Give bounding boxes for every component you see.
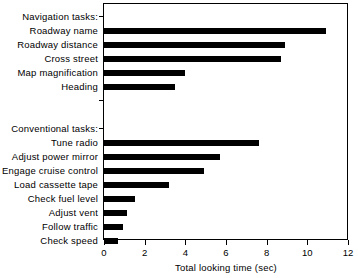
bar-row: Roadway distance xyxy=(0,38,358,52)
bar-row: Adjust power mirror xyxy=(0,150,358,164)
bar-row: Adjust vent xyxy=(0,206,358,220)
x-axis-tick-label: 10 xyxy=(302,246,313,259)
group-axis-tick xyxy=(99,128,104,129)
bar-row: Load cassette tape xyxy=(0,178,358,192)
bar-track xyxy=(104,84,175,90)
bar-track xyxy=(104,154,220,160)
x-axis-tick xyxy=(185,240,186,245)
bar xyxy=(104,70,185,76)
x-axis-tick xyxy=(307,240,308,245)
bar-row: Check fuel level xyxy=(0,192,358,206)
bar-category-label: Adjust vent xyxy=(0,206,98,220)
bar xyxy=(104,154,220,160)
x-axis-tick-label: 0 xyxy=(101,246,106,259)
bar-category-label: Load cassette tape xyxy=(0,178,98,192)
x-axis-tick xyxy=(348,240,349,245)
x-axis-tick xyxy=(226,240,227,245)
x-axis-tick-label: 2 xyxy=(142,246,147,259)
x-axis-ticks xyxy=(0,240,358,245)
bar xyxy=(104,182,169,188)
bar xyxy=(104,56,281,62)
x-axis-tick xyxy=(145,240,146,245)
x-axis-tick xyxy=(267,240,268,245)
bar-category-label: Adjust power mirror xyxy=(0,150,98,164)
bar-track xyxy=(104,56,281,62)
bar xyxy=(104,210,127,216)
bar xyxy=(104,168,204,174)
bar-category-label: Heading xyxy=(0,80,98,94)
group-header-label: Navigation tasks: xyxy=(0,10,98,24)
bar xyxy=(104,196,135,202)
bar-chart: Navigation tasks:Roadway nameRoadway dis… xyxy=(0,0,358,278)
group-header-row: Conventional tasks: xyxy=(0,122,358,136)
separator-row xyxy=(0,94,358,108)
bar-row: Map magnification xyxy=(0,66,358,80)
group-header-row: Navigation tasks: xyxy=(0,10,358,24)
bar-track xyxy=(104,70,185,76)
bar-track xyxy=(104,196,135,202)
x-axis-tick-label: 4 xyxy=(183,246,188,259)
bar-category-label: Engage cruise control xyxy=(0,164,98,178)
bar-row: Roadway name xyxy=(0,24,358,38)
bar-track xyxy=(104,28,326,34)
bar-category-label: Map magnification xyxy=(0,66,98,80)
x-axis-title: Total looking time (sec) xyxy=(104,262,348,274)
separator-axis-tick xyxy=(99,100,104,101)
x-axis-tick-label: 8 xyxy=(264,246,269,259)
bar-row: Cross street xyxy=(0,52,358,66)
bar-category-label: Roadway name xyxy=(0,24,98,38)
x-axis-tick xyxy=(104,240,105,245)
bar xyxy=(104,84,175,90)
group-header-label: Conventional tasks: xyxy=(0,122,98,136)
bar-track xyxy=(104,182,169,188)
bar-row: Tune radio xyxy=(0,136,358,150)
bar-category-label: Tune radio xyxy=(0,136,98,150)
bar-track xyxy=(104,224,123,230)
bar xyxy=(104,140,259,146)
bar xyxy=(104,224,123,230)
bar xyxy=(104,28,326,34)
bar-row: Heading xyxy=(0,80,358,94)
x-axis-tick-label: 12 xyxy=(343,246,354,259)
bar-track xyxy=(104,42,285,48)
bar-row: Engage cruise control xyxy=(0,164,358,178)
bar-category-label: Cross street xyxy=(0,52,98,66)
bar-track xyxy=(104,140,259,146)
bar-category-label: Check fuel level xyxy=(0,192,98,206)
group-axis-tick xyxy=(99,16,104,17)
bar-row: Follow traffic xyxy=(0,220,358,234)
bar xyxy=(104,42,285,48)
x-axis-tick-label: 6 xyxy=(223,246,228,259)
bar-category-label: Follow traffic xyxy=(0,220,98,234)
bar-track xyxy=(104,210,127,216)
bar-category-label: Roadway distance xyxy=(0,38,98,52)
x-axis-tick-labels: 024681012 xyxy=(0,246,358,259)
bar-track xyxy=(104,168,204,174)
